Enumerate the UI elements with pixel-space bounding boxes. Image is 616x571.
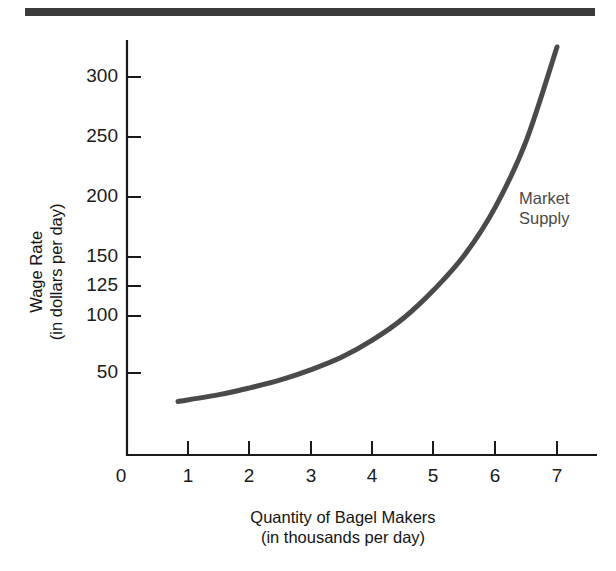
- x-tick-label: 6: [490, 465, 501, 486]
- series-label-line-1: Market: [519, 188, 569, 208]
- x-axis-title-sub: (in thousands per day): [128, 528, 558, 548]
- y-axis-tick-labels: 300 250 200 150 125 100 50: [86, 65, 118, 382]
- y-tick-label: 200: [86, 185, 118, 206]
- x-tick-label: 3: [306, 465, 317, 486]
- y-axis-ticks: [127, 77, 141, 373]
- x-axis-title-main: Quantity of Bagel Makers: [128, 508, 558, 528]
- y-tick-label: 125: [86, 274, 118, 295]
- market-supply-curve: [178, 47, 557, 402]
- x-tick-label: 7: [552, 465, 563, 486]
- x-tick-label: 1: [183, 465, 194, 486]
- y-tick-label: 250: [86, 125, 118, 146]
- x-tick-label: 5: [428, 465, 439, 486]
- x-axis-ticks: [188, 441, 557, 455]
- y-axis-title-sub: (in dollars per day): [47, 187, 67, 357]
- y-tick-label: 50: [97, 361, 118, 382]
- x-axis-title: Quantity of Bagel Makers (in thousands p…: [128, 508, 558, 548]
- y-axis-title-main: Wage Rate: [27, 187, 47, 357]
- x-axis-tick-labels: 0 1 2 3 4 5 6 7: [116, 465, 563, 486]
- chart-figure: 300 250 200 150 125 100 50 0 1 2 3 4 5 6: [0, 0, 616, 571]
- y-tick-label: 100: [86, 304, 118, 325]
- y-tick-label: 300: [86, 65, 118, 86]
- chart-plot-area: 300 250 200 150 125 100 50 0 1 2 3 4 5 6: [0, 0, 616, 571]
- market-supply-label: Market Supply: [519, 188, 569, 228]
- series-label-line-2: Supply: [519, 208, 569, 228]
- x-tick-label: 2: [244, 465, 255, 486]
- x-tick-label: 0: [116, 465, 127, 486]
- y-tick-label: 150: [86, 245, 118, 266]
- y-axis-title: Wage Rate (in dollars per day): [27, 187, 67, 357]
- x-tick-label: 4: [367, 465, 378, 486]
